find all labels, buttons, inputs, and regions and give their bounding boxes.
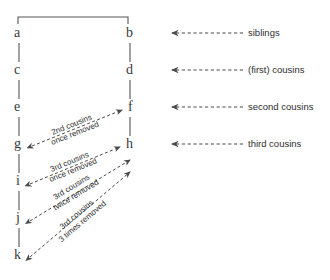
cousin-chart-canvas: acegijk bdfh siblings(first) cousinsseco… <box>0 0 330 280</box>
relation-label-third-cousins: third cousins <box>248 139 301 149</box>
relation-label-second-cousins: second cousins <box>248 102 313 112</box>
node-i: i <box>16 174 30 188</box>
node-d: d <box>126 63 140 77</box>
node-e: e <box>14 100 28 114</box>
node-c: c <box>14 63 28 77</box>
node-h: h <box>126 137 140 151</box>
bracket-path <box>18 17 128 24</box>
node-f: f <box>128 100 142 114</box>
node-a: a <box>14 26 28 40</box>
node-b: b <box>126 26 140 40</box>
relation-label-siblings: siblings <box>248 28 280 38</box>
relation-label-first-cousins: (first) cousins <box>248 65 304 75</box>
sibling-bracket-icon <box>18 17 128 24</box>
node-k: k <box>14 248 28 262</box>
relation-arrows <box>172 33 243 144</box>
node-j: j <box>16 211 30 225</box>
node-g: g <box>14 137 28 151</box>
